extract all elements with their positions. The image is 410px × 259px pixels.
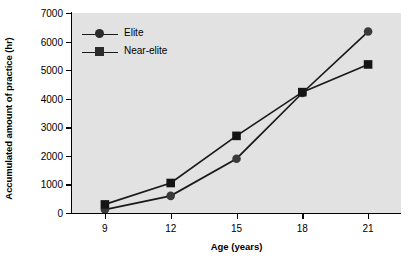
legend-item-elite: Elite: [82, 25, 202, 43]
y-tick-label: 1000: [41, 179, 63, 190]
data-point-elite: [166, 192, 175, 201]
x-axis-title: Age (years): [72, 241, 401, 252]
legend-marker-square-icon: [95, 47, 104, 56]
y-tick-label: 4000: [41, 93, 63, 104]
data-point-near-elite: [364, 60, 373, 69]
data-point-near-elite: [232, 132, 241, 141]
data-point-near-elite: [166, 179, 175, 188]
x-tick-mark: [302, 214, 303, 219]
x-tick-label: 12: [151, 223, 191, 234]
y-tick-label: 5000: [41, 65, 63, 76]
x-tick-mark: [105, 214, 106, 219]
x-tick-mark: [237, 214, 238, 219]
y-tick-label: 6000: [41, 36, 63, 47]
chart-legend: EliteNear-elite: [82, 25, 202, 61]
x-tick-label: 21: [348, 223, 388, 234]
legend-label: Elite: [124, 27, 143, 38]
x-tick-mark: [171, 214, 172, 219]
y-tick-mark: [66, 127, 71, 128]
y-axis-title: Accumulated amount of practice (hr): [2, 11, 16, 226]
x-tick-mark: [368, 214, 369, 219]
data-point-elite: [232, 154, 241, 163]
data-point-elite: [364, 27, 373, 36]
legend-label: Near-elite: [124, 45, 167, 56]
y-tick-mark: [66, 213, 71, 214]
y-tick-mark: [66, 13, 71, 14]
x-tick-label: 9: [85, 223, 125, 234]
y-tick-mark: [66, 156, 71, 157]
y-tick-label: 2000: [41, 150, 63, 161]
y-tick-label: 7000: [41, 8, 63, 19]
y-tick-mark: [66, 42, 71, 43]
x-tick-label: 18: [282, 223, 322, 234]
practice-accumulation-line-chart: Accumulated amount of practice (hr) 0100…: [0, 0, 410, 259]
y-tick-label: 0: [57, 208, 63, 219]
legend-item-near-elite: Near-elite: [82, 43, 202, 61]
y-tick-mark: [66, 184, 71, 185]
data-point-near-elite: [298, 88, 307, 97]
y-axis-line: [71, 12, 72, 214]
x-tick-label: 15: [217, 223, 257, 234]
y-tick-mark: [66, 70, 71, 71]
legend-marker-circle-icon: [95, 29, 104, 38]
y-tick-mark: [66, 99, 71, 100]
data-point-near-elite: [101, 200, 110, 209]
y-tick-label: 3000: [41, 122, 63, 133]
